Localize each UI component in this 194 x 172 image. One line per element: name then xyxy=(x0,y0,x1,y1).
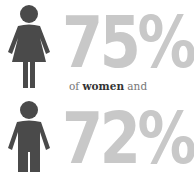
man-figure-icon xyxy=(4,100,54,172)
caption-suffix: and xyxy=(124,80,147,92)
men-percent: 72% xyxy=(62,102,193,172)
women-percent: 75% xyxy=(62,6,193,78)
caption-emphasis: women xyxy=(83,80,124,92)
caption-prefix: of xyxy=(69,80,83,92)
woman-figure-icon xyxy=(4,4,54,88)
caption-text: of women and xyxy=(69,80,147,92)
